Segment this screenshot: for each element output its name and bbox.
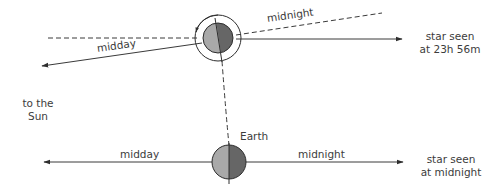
orbit-dashed-path — [222, 61, 229, 145]
top-earth-icon — [195, 15, 241, 62]
top-star-label-line2: at 23h 56m — [415, 43, 485, 56]
to-the-sun-label: to the Sun — [18, 97, 58, 123]
bottom-midday-label: midday — [120, 148, 159, 161]
sun-label-line2: Sun — [18, 110, 58, 123]
bottom-midnight-label: midnight — [298, 148, 345, 161]
top-star-label-line1: star seen — [415, 30, 485, 43]
bottom-star-label-line1: star seen — [416, 153, 486, 166]
bottom-star-label: star seen at midnight — [416, 153, 486, 179]
earth-label: Earth — [240, 130, 268, 143]
top-star-label: star seen at 23h 56m — [415, 30, 485, 56]
diagram-canvas — [0, 0, 488, 192]
sun-label-line1: to the — [18, 97, 58, 110]
bottom-earth-icon — [210, 143, 250, 184]
bottom-star-label-line2: at midnight — [416, 166, 486, 179]
sidereal-day-diagram: midday midnight star seen at 23h 56m to … — [0, 0, 488, 192]
